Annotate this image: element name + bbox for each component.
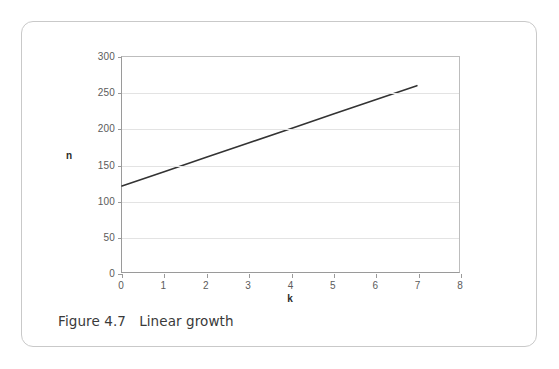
y-axis-tick-label: 0 <box>109 268 115 279</box>
x-axis-tick-label: 4 <box>288 280 294 291</box>
chart-area: 050100150200250300 n 012345678 k <box>22 22 538 302</box>
gridline-horizontal <box>122 129 459 130</box>
x-axis-tick-labels: 012345678 <box>121 280 460 294</box>
gridline-horizontal <box>122 93 459 94</box>
y-axis-tick-label: 200 <box>98 123 115 134</box>
x-axis-tick-label: 7 <box>415 280 421 291</box>
gridline-horizontal <box>122 238 459 239</box>
y-axis-label: n <box>66 150 72 161</box>
y-axis-tick-mark <box>118 238 122 239</box>
x-axis-tick-mark <box>249 274 250 278</box>
x-axis-tick-mark <box>334 274 335 278</box>
y-axis-tick-label: 50 <box>103 231 115 242</box>
x-axis-tick-mark <box>419 274 420 278</box>
plot-area <box>121 56 460 273</box>
x-axis-tick-label: 5 <box>330 280 336 291</box>
x-axis-tick-mark <box>376 274 377 278</box>
x-axis-tick-label: 6 <box>372 280 378 291</box>
y-axis-tick-mark <box>118 93 122 94</box>
y-axis-tick-labels: 050100150200250300 <box>82 56 115 273</box>
x-axis-tick-label: 0 <box>118 280 124 291</box>
y-axis-tick-mark <box>118 166 122 167</box>
x-axis-tick-mark <box>292 274 293 278</box>
x-axis-tick-label: 2 <box>203 280 209 291</box>
x-axis-tick-mark <box>122 274 123 278</box>
y-axis-tick-mark <box>118 57 122 58</box>
gridline-horizontal <box>122 166 459 167</box>
y-axis-tick-label: 300 <box>98 51 115 62</box>
x-axis-tick-label: 8 <box>457 280 463 291</box>
y-axis-tick-label: 250 <box>98 87 115 98</box>
figure-card: 050100150200250300 n 012345678 k Figure … <box>21 21 537 347</box>
y-axis-tick-label: 150 <box>98 159 115 170</box>
x-axis-tick-mark <box>207 274 208 278</box>
x-axis-label: k <box>287 293 293 304</box>
x-axis-tick-label: 1 <box>161 280 167 291</box>
x-axis-tick-mark <box>461 274 462 278</box>
series-line-path <box>122 86 417 186</box>
y-axis-tick-label: 100 <box>98 195 115 206</box>
x-axis-tick-mark <box>164 274 165 278</box>
y-axis-tick-mark <box>118 202 122 203</box>
gridline-horizontal <box>122 202 459 203</box>
series-line-chart <box>122 57 459 272</box>
x-axis-tick-label: 3 <box>245 280 251 291</box>
figure-caption: Figure 4.7 Linear growth <box>58 313 234 329</box>
y-axis-tick-mark <box>118 129 122 130</box>
